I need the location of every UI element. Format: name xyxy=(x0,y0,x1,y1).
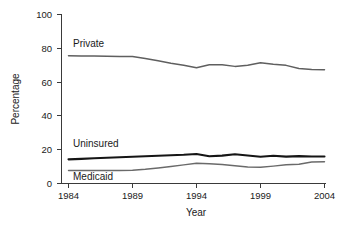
y-axis-title: Percentage xyxy=(10,73,21,125)
y-tick-label-60: 60 xyxy=(41,77,52,88)
x-tick-label-1984: 1984 xyxy=(58,190,79,201)
series-label-medicaid: Medicaid xyxy=(73,171,113,182)
series-line-private xyxy=(69,56,325,70)
y-tick-label-0: 0 xyxy=(47,178,52,189)
y-tick-label-100: 100 xyxy=(36,9,52,20)
x-axis-title: Year xyxy=(186,207,207,218)
series-line-uninsured xyxy=(69,154,325,159)
series-label-uninsured: Uninsured xyxy=(73,138,119,149)
x-tick-label-1994: 1994 xyxy=(186,190,207,201)
y-tick-label-40: 40 xyxy=(41,110,52,121)
x-tick-label-1999: 1999 xyxy=(250,190,271,201)
chart-figure: 100 80 60 40 20 0 1984 1989 1994 1999 20… xyxy=(0,0,351,229)
x-tick-label-1989: 1989 xyxy=(122,190,143,201)
y-tick-label-20: 20 xyxy=(41,144,52,155)
line-chart: 100 80 60 40 20 0 1984 1989 1994 1999 20… xyxy=(0,0,351,229)
series-label-private: Private xyxy=(73,38,105,49)
x-tick-label-2004: 2004 xyxy=(314,190,335,201)
y-tick-label-80: 80 xyxy=(41,43,52,54)
series-line-medicaid xyxy=(69,162,325,171)
x-axis-ticks xyxy=(69,184,325,189)
y-axis-ticks xyxy=(57,15,62,184)
